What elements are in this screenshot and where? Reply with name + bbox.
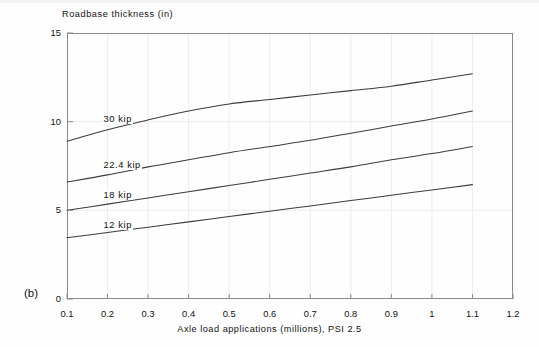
x-tick-label: 0.6	[254, 308, 286, 319]
y-tick-label: 0	[35, 293, 61, 304]
x-axis-title: Axle load applications (millions), PSI 2…	[0, 324, 539, 334]
y-tick-label: 5	[35, 204, 61, 215]
x-tick-label: 1.1	[456, 308, 488, 319]
series-label-30-kip: 30 kip	[103, 114, 133, 124]
x-tick-label: 0.3	[132, 308, 164, 319]
series-label-12-kip: 12 kip	[103, 220, 133, 230]
x-tick-label: 0.5	[213, 308, 245, 319]
y-tick-label: 10	[35, 116, 61, 127]
x-tick-label: 0.1	[51, 308, 83, 319]
series-label-18-kip: 18 kip	[103, 190, 133, 200]
page-top-edge	[0, 0, 539, 3]
x-tick-label: 1	[416, 308, 448, 319]
y-axis-title: Roadbase thickness (in)	[62, 9, 173, 19]
x-tick-label: 0.7	[294, 308, 326, 319]
x-tick-label: 0.8	[335, 308, 367, 319]
x-tick-label: 0.2	[92, 308, 124, 319]
series-label-22-4-kip: 22.4 kip	[103, 160, 142, 170]
x-tick-label: 0.9	[375, 308, 407, 319]
x-tick-label: 0.4	[173, 308, 205, 319]
x-tick-label: 1.2	[497, 308, 529, 319]
figure-container: Roadbase thickness (in) (b) 051015 0.10.…	[0, 0, 539, 347]
y-tick-label: 15	[35, 27, 61, 38]
